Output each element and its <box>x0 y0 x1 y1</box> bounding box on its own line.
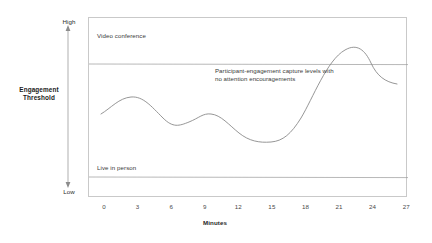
y-axis-title-line2: Threshold <box>23 94 55 101</box>
engagement-curve-annotation: Participant-engagement capture levels wi… <box>215 67 334 83</box>
annotation-line1: Participant-engagement capture levels wi… <box>215 67 334 75</box>
x-tick-label: 27 <box>397 203 415 210</box>
engagement-curve <box>101 47 397 142</box>
x-tick-label: 15 <box>263 203 281 210</box>
video-conference-threshold-line <box>89 64 408 65</box>
annotation-line2: no attention encouragements <box>215 75 334 83</box>
x-tick-label: 18 <box>296 203 314 210</box>
plot-svg <box>89 18 408 198</box>
x-axis-title: Minutes <box>160 219 270 226</box>
y-axis-title: Engagement Threshold <box>8 86 70 102</box>
y-axis-title-line1: Engagement <box>19 86 58 93</box>
x-tick-label: 24 <box>364 203 382 210</box>
x-tick-label: 0 <box>95 203 113 210</box>
x-tick-label: 12 <box>229 203 247 210</box>
x-tick-label: 3 <box>129 203 147 210</box>
live-in-person-threshold-line <box>89 177 408 178</box>
engagement-axis-arrow <box>54 14 84 194</box>
x-tick-label: 21 <box>330 203 348 210</box>
x-tick-label: 6 <box>162 203 180 210</box>
x-tick-label: 9 <box>196 203 214 210</box>
x-axis-ticks: 0369121518212427 <box>88 203 407 214</box>
y-axis-low-label: Low <box>57 188 81 195</box>
live-in-person-label: Live in person <box>97 164 136 171</box>
video-conference-label: Video conference <box>97 32 146 39</box>
chart-figure: High Low Engagement Threshold Video conf… <box>0 0 432 243</box>
plot-area: Video conference Live in person Particip… <box>88 17 407 197</box>
y-axis-high-label: High <box>57 18 81 25</box>
